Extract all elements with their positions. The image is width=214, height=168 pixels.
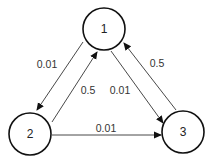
node-2-label: 2 [27,127,34,141]
edge-1-to-2: 0.01 [37,42,83,110]
edge-1-to-2-arrow [37,42,83,110]
edge-2-to-3: 0.01 [52,122,161,135]
edge-3-to-1: 0.5 [124,43,176,110]
edge-1-to-2-label: 0.01 [37,58,58,70]
edge-3-to-1-label: 0.5 [150,57,165,69]
node-3: 3 [162,111,204,153]
node-2: 2 [9,113,51,155]
node-1: 1 [83,8,125,50]
edge-3-to-1-arrow [124,43,176,110]
edge-2-to-1-label: 0.5 [81,84,96,96]
edge-2-to-1: 0.5 [52,52,97,122]
edge-1-to-3-label: 0.01 [110,84,131,96]
edges-layer: 0.01 0.5 0.01 0.5 0.01 [37,42,176,135]
node-1-label: 1 [101,22,108,36]
edge-2-to-3-label: 0.01 [96,122,117,134]
state-diagram: 0.01 0.5 0.01 0.5 0.01 1 2 3 [0,0,214,168]
node-3-label: 3 [180,125,187,139]
